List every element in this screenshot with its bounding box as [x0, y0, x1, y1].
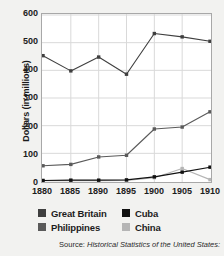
chart-legend: Great Britain Cuba Philippines China — [38, 206, 214, 234]
legend-swatch-icon — [38, 223, 46, 231]
legend-label: Cuba — [135, 208, 158, 219]
legend-item-philippines[interactable]: Philippines — [38, 220, 122, 234]
source-lead: Source: — [59, 240, 87, 249]
y-tick-label: 200 — [4, 122, 38, 131]
chart-container: Dollars (in millions) 600 500 400 300 20… — [0, 0, 224, 256]
legend-item-cuba[interactable]: Cuba — [122, 206, 204, 220]
legend-item-great-britain[interactable]: Great Britain — [38, 206, 122, 220]
y-tick-label: 300 — [4, 93, 38, 102]
legend-swatch-icon — [122, 223, 130, 231]
legend-row: Philippines China — [38, 220, 214, 234]
legend-swatch-icon — [122, 209, 130, 217]
source-title: Historical Statistics of the United Stat… — [87, 240, 220, 249]
y-tick-label: 100 — [4, 150, 38, 159]
x-tick-label: 1910 — [194, 187, 224, 196]
legend-swatch-icon — [38, 209, 46, 217]
y-tick-label: 500 — [4, 37, 38, 46]
y-tick-label: 400 — [4, 65, 38, 74]
source-note: Source: Historical Statistics of the Uni… — [0, 240, 220, 249]
legend-row: Great Britain Cuba — [38, 206, 214, 220]
legend-label: China — [135, 222, 161, 233]
plot-area — [41, 13, 212, 183]
legend-item-china[interactable]: China — [122, 220, 204, 234]
legend-label: Great Britain — [51, 208, 107, 219]
y-tick-label: 600 — [4, 9, 38, 18]
legend-label: Philippines — [51, 222, 100, 233]
plot-svg — [42, 14, 211, 182]
